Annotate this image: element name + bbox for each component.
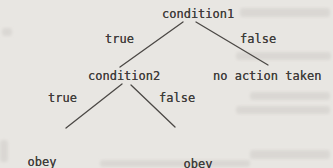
- edge-label-condition1-true: true: [105, 33, 134, 45]
- node-condition2: condition2: [88, 70, 160, 82]
- scanned-decision-tree-diagram: condition1 condition2 no action taken ob…: [0, 0, 333, 168]
- node-obey-statementa-line1: obey: [4, 155, 80, 168]
- node-obey-statementb-line1: obey: [160, 157, 236, 168]
- node-obey-statementa: obey statementa: [4, 127, 80, 168]
- edge-label-condition2-true: true: [48, 92, 77, 104]
- node-obey-statementb: obey statementb: [160, 129, 236, 168]
- edge-label-condition1-false: false: [240, 33, 276, 45]
- node-no-action-taken: no action taken: [213, 70, 321, 82]
- node-condition1: condition1: [162, 8, 234, 20]
- edge-label-condition2-false: false: [159, 92, 195, 104]
